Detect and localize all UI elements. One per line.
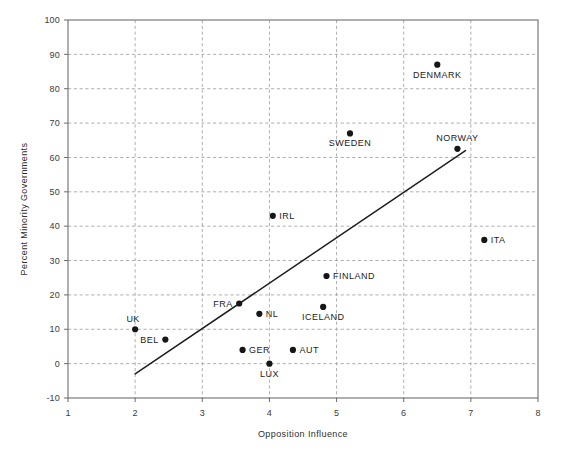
x-tick-label: 3 [200, 408, 205, 418]
x-tick-label: 2 [133, 408, 138, 418]
data-point-marker [132, 326, 138, 332]
data-point-label: LUX [260, 369, 279, 379]
y-tick-label: 100 [44, 15, 60, 25]
data-point-marker [454, 146, 460, 152]
data-point-marker [290, 347, 296, 353]
data-point-marker [162, 336, 168, 342]
y-axis-title: Percent Minority Governments [19, 143, 29, 276]
data-point-label: IRL [279, 211, 295, 221]
data-point-label: GER [249, 345, 270, 355]
data-point-marker [347, 130, 353, 136]
x-tick-label: 8 [535, 408, 540, 418]
y-tick-label: 50 [50, 187, 60, 197]
data-point-marker [270, 213, 276, 219]
data-point-label: ICELAND [302, 312, 345, 322]
y-tick-label: 30 [50, 256, 60, 266]
y-tick-label: 40 [50, 221, 60, 231]
y-tick-label: 70 [50, 118, 60, 128]
x-tick-label: 7 [468, 408, 473, 418]
data-point-marker [239, 347, 245, 353]
data-point-label: DENMARK [413, 70, 462, 80]
data-point-label: UK [126, 314, 140, 324]
data-point-marker [266, 361, 272, 367]
chart-canvas: -100102030405060708090100 12345678 DENMA… [0, 0, 562, 462]
x-tick-label: 1 [65, 408, 70, 418]
x-tick-label: 5 [334, 408, 339, 418]
y-tick-label: 0 [55, 359, 60, 369]
data-point-label: NORWAY [436, 133, 478, 143]
data-point-label: SWEDEN [329, 138, 372, 148]
chart-background [0, 0, 562, 462]
y-tick-label: 80 [50, 84, 60, 94]
data-point-label: FINLAND [333, 271, 375, 281]
data-point-label: ITA [491, 235, 506, 245]
data-point-label: FRA [213, 299, 233, 309]
y-tick-label: -10 [46, 393, 60, 403]
scatter-chart: -100102030405060708090100 12345678 DENMA… [0, 0, 562, 462]
y-tick-label: 10 [50, 324, 60, 334]
data-point-marker [320, 304, 326, 310]
x-axis-title: Opposition Influence [258, 429, 348, 439]
data-point-marker [481, 237, 487, 243]
data-point-label: NL [266, 309, 279, 319]
y-tick-label: 20 [50, 290, 60, 300]
x-tick-label: 6 [401, 408, 406, 418]
data-point-label: AUT [299, 345, 319, 355]
y-tick-label: 60 [50, 153, 60, 163]
data-point-marker [434, 62, 440, 68]
y-tick-label: 90 [50, 50, 60, 60]
data-point-marker [323, 273, 329, 279]
x-tick-label: 4 [267, 408, 272, 418]
data-point-label: BEL [140, 335, 159, 345]
data-point-marker [256, 311, 262, 317]
data-point-marker [236, 300, 242, 306]
